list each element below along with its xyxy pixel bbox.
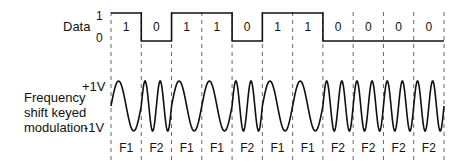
frequency-label: F2 [141,141,171,155]
bit-value-label: 0 [141,20,171,34]
frequency-label: F2 [323,141,353,155]
frequency-label: F2 [383,141,413,155]
fsk-row-label-line3: modulation [24,121,88,135]
frequency-label: F1 [262,141,292,155]
data-level-low-label: 0 [96,31,103,45]
frequency-label: F2 [353,141,383,155]
frequency-label: F2 [414,141,444,155]
bit-value-label: 0 [323,20,353,34]
bit-value-label: 1 [202,20,232,34]
bit-value-label: 0 [232,20,262,34]
fsk-v-low-label: -1V [84,121,104,135]
fsk-row-label-line2: shift keyed [24,106,86,120]
frequency-label: F1 [202,141,232,155]
bit-value-label: 0 [414,20,444,34]
frequency-label: F1 [172,141,202,155]
bit-value-label: 1 [172,20,202,34]
data-level-high-label: 1 [96,9,103,23]
bit-value-label: 0 [353,20,383,34]
bit-value-label: 1 [262,20,292,34]
frequency-label: F2 [232,141,262,155]
bit-value-label: 1 [111,20,141,34]
fsk-v-high-label: +1V [82,80,106,94]
fsk-sine-wave [111,81,444,131]
bit-value-label: 0 [383,20,413,34]
frequency-label: F1 [293,141,323,155]
fsk-row-label-line1: Frequency [24,91,85,105]
data-row-label: Data [63,20,90,34]
frequency-label: F1 [111,141,141,155]
bit-value-label: 1 [293,20,323,34]
